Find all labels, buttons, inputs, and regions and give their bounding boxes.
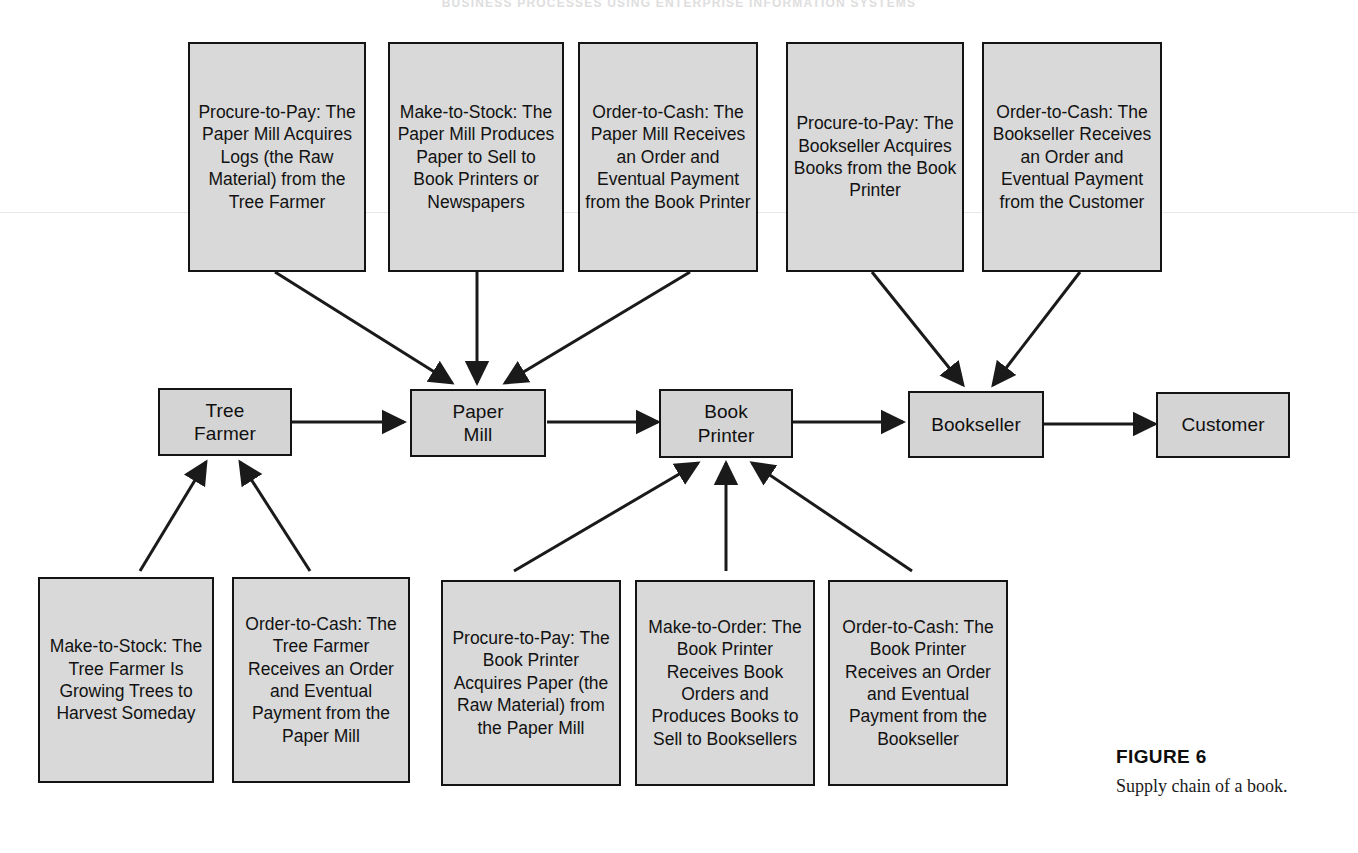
desc-box-procure-to-pay-paper-mill: Procure-to-Pay: The Paper Mill Acquires … [188, 42, 366, 272]
desc-box-text: Procure-to-Pay: The Paper Mill Acquires … [195, 101, 359, 213]
desc-box-order-to-cash-paper-mill: Order-to-Cash: The Paper Mill Receives a… [578, 42, 758, 272]
arrow-order-to-cash-bookseller [993, 272, 1080, 385]
figure-label: FIGURE 6 [1116, 746, 1352, 768]
desc-box-order-to-cash-bookseller: Order-to-Cash: The Bookseller Receives a… [982, 42, 1162, 272]
desc-box-text: Procure-to-Pay: The Bookseller Acquires … [793, 112, 957, 202]
arrow-procure-to-pay-bookseller [872, 272, 963, 385]
desc-box-text: Order-to-Cash: The Book Printer Receives… [835, 616, 1001, 750]
desc-box-text: Make-to-Order: The Book Printer Receives… [642, 616, 808, 750]
node-paper-mill: Paper Mill [410, 389, 546, 457]
figure-caption: FIGURE 6 Supply chain of a book. [1116, 746, 1352, 797]
desc-box-make-to-stock-paper-mill: Make-to-Stock: The Paper Mill Produces P… [388, 42, 564, 272]
desc-box-text: Order-to-Cash: The Bookseller Receives a… [989, 101, 1155, 213]
arrow-order-to-cash-tree-farmer [240, 462, 310, 571]
node-label: Bookseller [910, 413, 1042, 436]
desc-box-order-to-cash-book-printer: Order-to-Cash: The Book Printer Receives… [828, 580, 1008, 786]
node-label: Paper Mill [412, 400, 544, 446]
node-book-printer: Book Printer [659, 389, 793, 458]
arrow-order-to-cash-book-printer [752, 463, 912, 571]
node-label: Tree Farmer [160, 399, 290, 445]
desc-box-text: Make-to-Stock: The Paper Mill Produces P… [395, 101, 557, 213]
desc-box-text: Order-to-Cash: The Paper Mill Receives a… [585, 101, 751, 213]
desc-box-make-to-order-book-printer: Make-to-Order: The Book Printer Receives… [635, 580, 815, 786]
node-customer: Customer [1156, 392, 1290, 458]
figure-caption-text: Supply chain of a book. [1116, 776, 1352, 797]
desc-box-text: Make-to-Stock: The Tree Farmer Is Growin… [45, 635, 207, 725]
desc-box-text: Order-to-Cash: The Tree Farmer Receives … [239, 613, 403, 747]
desc-box-order-to-cash-tree-farmer: Order-to-Cash: The Tree Farmer Receives … [232, 577, 410, 783]
node-label: Book Printer [661, 400, 791, 446]
node-tree-farmer: Tree Farmer [158, 388, 292, 456]
desc-box-text: Procure-to-Pay: The Book Printer Acquire… [448, 627, 614, 739]
node-bookseller: Bookseller [908, 391, 1044, 458]
arrow-procure-to-pay-book-printer [514, 463, 698, 571]
arrow-order-to-cash-paper-mill [505, 272, 690, 383]
desc-box-make-to-stock-tree-farmer: Make-to-Stock: The Tree Farmer Is Growin… [38, 577, 214, 783]
desc-box-procure-to-pay-bookseller: Procure-to-Pay: The Bookseller Acquires … [786, 42, 964, 272]
arrow-make-to-stock-tree-farmer [140, 462, 206, 571]
node-label: Customer [1158, 413, 1288, 436]
arrow-procure-to-pay-paper-mill [275, 272, 452, 383]
figure-page: BUSINESS PROCESSES USING ENTERPRISE INFO… [0, 0, 1358, 853]
desc-box-procure-to-pay-book-printer: Procure-to-Pay: The Book Printer Acquire… [441, 580, 621, 786]
